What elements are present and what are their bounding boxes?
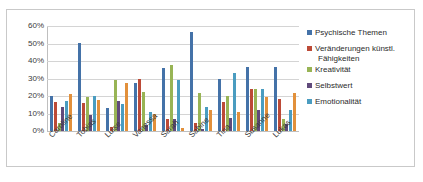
bar-group bbox=[187, 26, 215, 131]
bar bbox=[293, 93, 296, 131]
legend-item[interactable]: Kreativität bbox=[307, 65, 419, 75]
chart-legend: Psychische ThemenVeränderungen künstl.Fä… bbox=[307, 28, 419, 108]
y-axis-tick-label: 30% bbox=[10, 75, 44, 83]
category-label-slot: Sarah bbox=[159, 133, 187, 173]
category-label-slot: Lukas bbox=[271, 133, 299, 173]
legend-item[interactable]: Psychische Themen bbox=[307, 28, 419, 38]
legend-label: Emotionalität bbox=[315, 97, 361, 107]
legend-item[interactable]: Selbstwert bbox=[307, 81, 419, 91]
bar bbox=[181, 128, 184, 131]
y-axis-tick-label: 20% bbox=[10, 92, 44, 100]
bar-group bbox=[75, 26, 103, 131]
legend-item[interactable]: Veränderungen künstl.Fähigkeiten bbox=[307, 44, 419, 64]
category-axis-labels: CarolineTobiasLuiseVanessaSarahSabineTin… bbox=[47, 133, 299, 177]
legend-swatch-icon bbox=[307, 83, 312, 88]
bar bbox=[97, 100, 100, 132]
bar-group bbox=[159, 26, 187, 131]
bar bbox=[237, 112, 240, 131]
legend-label: Kreativität bbox=[315, 65, 351, 75]
bar-group bbox=[103, 26, 131, 131]
category-label-slot: Sabine bbox=[187, 133, 215, 173]
category-label-slot: Tobias bbox=[75, 133, 103, 173]
bar-group bbox=[271, 26, 299, 131]
bar bbox=[233, 73, 236, 131]
legend-swatch-icon bbox=[307, 46, 312, 51]
legend-swatch-icon bbox=[307, 30, 312, 35]
bar-chart-widget: 60%50%40%30%20%10%0% CarolineTobiasLuise… bbox=[0, 0, 423, 182]
bar bbox=[190, 32, 193, 131]
y-axis-tick-label: 50% bbox=[10, 40, 44, 48]
legend-label: Psychische Themen bbox=[315, 28, 387, 38]
category-label-slot: Susanne bbox=[243, 133, 271, 173]
y-axis-tick-label: 0% bbox=[10, 127, 44, 135]
category-label-slot: Luise bbox=[103, 133, 131, 173]
bar bbox=[162, 68, 165, 131]
bar bbox=[125, 83, 128, 131]
y-axis-tick-label: 10% bbox=[10, 110, 44, 118]
legend-swatch-icon bbox=[307, 99, 312, 104]
legend-label-line2: Fähigkeiten bbox=[315, 54, 395, 64]
bar bbox=[246, 67, 249, 131]
y-axis: 60%50%40%30%20%10%0% bbox=[7, 26, 44, 131]
category-label-slot: Tina bbox=[215, 133, 243, 173]
y-axis-tick-label: 40% bbox=[10, 57, 44, 65]
chart-frame: 60%50%40%30%20%10%0% CarolineTobiasLuise… bbox=[6, 9, 415, 167]
legend-swatch-icon bbox=[307, 67, 312, 72]
bar bbox=[218, 79, 221, 131]
bar bbox=[274, 67, 277, 131]
category-label-slot: Vanessa bbox=[131, 133, 159, 173]
bar-group bbox=[215, 26, 243, 131]
legend-label: Veränderungen künstl.Fähigkeiten bbox=[315, 44, 395, 64]
legend-label: Selbstwert bbox=[315, 81, 352, 91]
bar bbox=[134, 83, 137, 131]
category-label-slot: Caroline bbox=[47, 133, 75, 173]
legend-item[interactable]: Emotionalität bbox=[307, 97, 419, 107]
y-axis-tick-label: 60% bbox=[10, 22, 44, 30]
bar bbox=[78, 43, 81, 131]
